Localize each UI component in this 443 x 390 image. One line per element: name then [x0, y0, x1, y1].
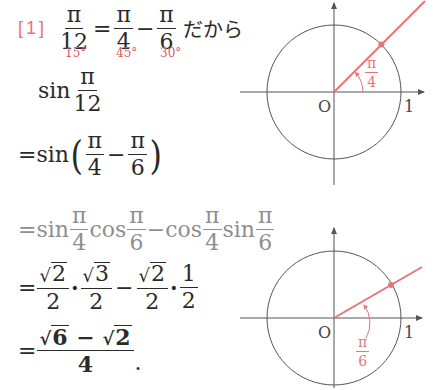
intersection-point: [388, 282, 394, 288]
unit-label: 1: [404, 323, 414, 342]
angle-ray: [334, 267, 422, 318]
angle-label: π6: [355, 335, 370, 368]
degree-15: 15°: [65, 46, 86, 60]
angle-label: π4: [364, 56, 379, 89]
angle-arc: [356, 73, 364, 93]
problem-number: [1]: [18, 18, 47, 39]
because-text: だから: [183, 14, 243, 43]
origin-label: O: [318, 97, 331, 116]
unit-label: 1: [404, 97, 414, 116]
equation-line-5-answer: = √6 − √2 4 .: [18, 325, 142, 375]
intersection-point: [378, 42, 384, 48]
unit-circle-diagram-1: [240, 1, 425, 185]
degree-45: 45°: [116, 46, 137, 60]
degree-30: 30°: [160, 46, 181, 60]
equation-line-2: =sin ( π4 − π6 ): [18, 130, 164, 179]
equation-line-3: =sin π4 cos π6 −cos π4 sin π6: [18, 205, 275, 254]
origin-label: O: [318, 323, 331, 342]
equation-line-1: sin π12: [38, 66, 105, 115]
equation-line-4: = √22 · √32 − √22 · 12: [18, 262, 199, 313]
